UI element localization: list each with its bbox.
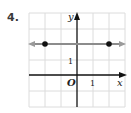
x-axis-label: x [117,77,123,88]
point-left [42,41,48,47]
x-axis [29,72,127,78]
point-right [106,41,112,47]
y-axis-label: y [67,11,74,22]
x-tick-label: 1 [90,79,95,88]
origin-label: O [67,77,76,88]
coordinate-plane: y x O 1 1 [0,0,131,113]
y-tick-label: 1 [68,57,73,66]
